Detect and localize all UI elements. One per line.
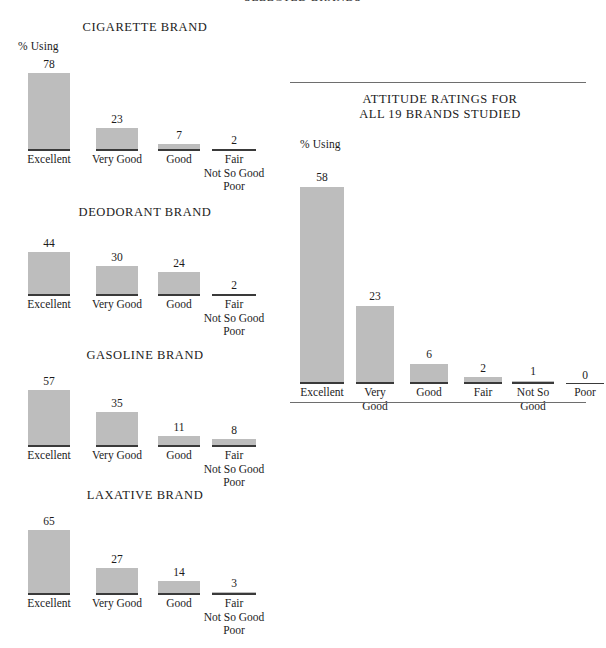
bar-value-label: 8: [212, 425, 256, 437]
category-label-line: Not So Good: [198, 312, 270, 326]
bar-group: 2FairNot So GoodPoor: [212, 71, 256, 151]
bar-value-label: 24: [158, 258, 200, 270]
bar-group: 78Excellent: [28, 71, 70, 151]
category-label: FairNot So GoodPoor: [198, 296, 270, 339]
bar: [28, 390, 70, 447]
category-label: Very Good: [82, 595, 152, 611]
chart-page: SELECTED BRANDS CIGARETTE BRAND % Using …: [0, 0, 606, 648]
category-label: Excellent: [14, 447, 84, 463]
bar: [464, 377, 502, 384]
bar-value-label: 6: [410, 349, 448, 361]
plot-area: 57Excellent35Very Good11Good8FairNot So …: [0, 385, 290, 447]
panel-deodorant-brand: DEODORANT BRAND 44Excellent30Very Good24…: [0, 205, 290, 296]
category-label-line: Fair: [198, 298, 270, 312]
bar: [28, 530, 70, 595]
panel-title: CIGARETTE BRAND: [0, 20, 290, 35]
bar-group: 57Excellent: [28, 385, 70, 447]
bar: [96, 266, 138, 296]
bar-value-label: 23: [356, 291, 394, 303]
right-panel-top-rule: [290, 82, 586, 83]
bar-group: 7Good: [158, 71, 200, 151]
bar-group: 58Excellent: [300, 184, 344, 384]
bar-value-label: 2: [212, 280, 256, 292]
panel-title-line-1: ATTITUDE RATINGS FOR: [290, 92, 590, 107]
bar-group: 44Excellent: [28, 248, 70, 296]
document-top-heading: SELECTED BRANDS: [0, 0, 606, 3]
bar: [96, 128, 138, 151]
bar: [300, 187, 344, 384]
category-label: Very Good: [82, 447, 152, 463]
category-label-line: Very Good: [82, 298, 152, 312]
category-label-line: Excellent: [14, 298, 84, 312]
category-label-line: Very Good: [82, 153, 152, 167]
bar-group: 30Very Good: [96, 248, 138, 296]
bar-group: 27Very Good: [96, 525, 138, 595]
category-label-line: Very Good: [82, 597, 152, 611]
panel-laxative-brand: LAXATIVE BRAND 65Excellent27Very Good14G…: [0, 488, 290, 595]
bar-value-label: 57: [28, 376, 70, 388]
category-label-line: Fair: [198, 449, 270, 463]
bar-value-label: 27: [96, 554, 138, 566]
category-label-line: Fair: [198, 153, 270, 167]
panel-gasoline-brand: GASOLINE BRAND 57Excellent35Very Good11G…: [0, 348, 290, 447]
plot-area: 58Excellent23VeryGood6Good2Fair1Not SoGo…: [290, 184, 590, 384]
category-label: Poor: [552, 384, 606, 400]
bar-value-label: 44: [28, 238, 70, 250]
panel-title: GASOLINE BRAND: [0, 348, 290, 363]
bar-group: 8FairNot So GoodPoor: [212, 385, 256, 447]
y-axis-label: % Using: [300, 138, 341, 150]
bar-group: 1Not SoGood: [512, 184, 554, 384]
bar-group: 14Good: [158, 525, 200, 595]
bar-value-label: 2: [212, 135, 256, 147]
bar-value-label: 58: [300, 172, 344, 184]
bar-value-label: 1: [512, 366, 554, 378]
category-label-line: Fair: [198, 597, 270, 611]
bar: [28, 73, 70, 151]
plot-area: 65Excellent27Very Good14Good3FairNot So …: [0, 525, 290, 595]
bar-group: 2Fair: [464, 184, 502, 384]
category-label: FairNot So GoodPoor: [198, 151, 270, 194]
bar: [96, 568, 138, 595]
panel-title: DEODORANT BRAND: [0, 205, 290, 220]
bar: [158, 581, 200, 595]
y-axis-label: % Using: [18, 40, 59, 52]
category-label: Excellent: [14, 296, 84, 312]
category-label: Very Good: [82, 151, 152, 167]
category-label-line: Excellent: [14, 153, 84, 167]
category-label: Excellent: [14, 151, 84, 167]
category-label-line: Not So Good: [198, 611, 270, 625]
bar-group: 3FairNot So GoodPoor: [212, 525, 256, 595]
category-label-line: Poor: [552, 386, 606, 400]
category-label: FairNot So GoodPoor: [198, 595, 270, 638]
plot-area: 78Excellent23Very Good7Good2FairNot So G…: [0, 71, 290, 151]
bar-value-label: 65: [28, 516, 70, 528]
bar-value-label: 78: [28, 59, 70, 71]
panel-title-line-2: ALL 19 BRANDS STUDIED: [290, 107, 590, 122]
right-panel-bottom-rule: [290, 402, 586, 403]
bar: [158, 272, 200, 296]
bar-group: 35Very Good: [96, 385, 138, 447]
category-label-line: Very Good: [82, 449, 152, 463]
bar-group: 23Very Good: [96, 71, 138, 151]
panel-cigarette-brand: CIGARETTE BRAND % Using 78Excellent23Ver…: [0, 20, 290, 151]
bar-value-label: 7: [158, 130, 200, 142]
bar-value-label: 30: [96, 252, 138, 264]
bar-value-label: 3: [212, 578, 256, 590]
bar-group: 24Good: [158, 248, 200, 296]
bar-value-label: 23: [96, 114, 138, 126]
bar-value-label: 35: [96, 398, 138, 410]
category-label-line: Excellent: [14, 597, 84, 611]
bar-group: 23VeryGood: [356, 184, 394, 384]
panel-title: LAXATIVE BRAND: [0, 488, 290, 503]
bar-group: 2FairNot So GoodPoor: [212, 248, 256, 296]
bar: [212, 439, 256, 447]
category-label-line: Excellent: [14, 449, 84, 463]
panel-attitude-ratings-all-brands: ATTITUDE RATINGS FOR ALL 19 BRANDS STUDI…: [290, 92, 590, 384]
bar: [158, 144, 200, 151]
bar: [410, 364, 448, 384]
bar-value-label: 14: [158, 567, 200, 579]
bar: [96, 412, 138, 447]
bar-value-label: 0: [566, 370, 604, 382]
category-label-line: Poor: [198, 624, 270, 638]
category-label: Very Good: [82, 296, 152, 312]
